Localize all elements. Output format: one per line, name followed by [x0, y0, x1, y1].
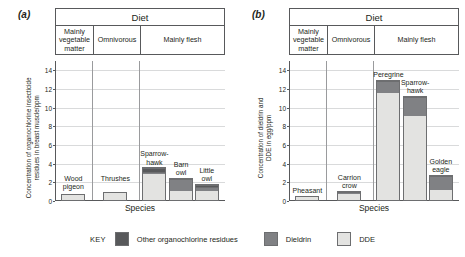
y-tick-label: 4 — [48, 160, 52, 167]
bar-segment-dde — [296, 197, 318, 200]
gridline — [289, 145, 459, 146]
diet-group-separator — [326, 61, 327, 201]
y-tick-label: 10 — [45, 104, 52, 111]
panel-a-ylabel-line1: Concentration of organochlorine insectic… — [25, 77, 32, 198]
panel-a-letter: (a) — [18, 9, 30, 20]
y-tick-label: 10 — [279, 104, 286, 111]
diet-col-flesh-a: Mainly flesh — [140, 26, 224, 55]
diet-col-flesh-b: Mainly flesh — [374, 26, 458, 55]
y-tick-label: 14 — [279, 67, 286, 74]
diet-group-separator — [373, 61, 374, 201]
diet-col-omnivorous-a: Omnivorous — [93, 26, 140, 55]
legend-key: KEY Other organochlorine residues Dieldr… — [0, 228, 465, 250]
bar-segment-dde — [104, 193, 126, 200]
bar-label: Sparrow- hawk — [140, 150, 168, 166]
y-tick-label: 8 — [48, 123, 52, 130]
gridline — [289, 108, 459, 109]
panel-a-diet-header: Diet Mainly vegetable matter Omnivorous … — [55, 8, 225, 55]
bar-label: Thrushes — [101, 175, 130, 183]
diet-group-separator — [139, 61, 140, 201]
y-tick-label: 2 — [282, 179, 286, 186]
gridline — [55, 70, 225, 71]
panel-a: (a) Diet Mainly vegetable matter Omnivor… — [0, 0, 232, 218]
y-axis-line — [55, 61, 56, 201]
y-tick-label: 14 — [45, 67, 52, 74]
diet-title-a: Diet — [56, 9, 224, 26]
diet-title-b: Diet — [290, 9, 458, 26]
panel-a-plot-area: 02468101214Wood pigeonThrushesSparrow- h… — [55, 61, 225, 201]
bar-label: Peregrine — [373, 71, 403, 79]
panel-b-ylabel-line1: Concentration of dieldrin and — [257, 98, 264, 179]
panel-b-ylabel-line2: DDE in egg/ppm — [265, 115, 272, 161]
diet-col-omnivorous-b: Omnivorous — [327, 26, 374, 55]
bar-segment-dde — [196, 191, 218, 200]
key-item-other: Other organochlorine residues — [115, 232, 264, 246]
panel-b-letter: (b) — [252, 9, 265, 20]
gridline — [55, 89, 225, 90]
bar-golden-eagle — [429, 175, 453, 201]
panel-a-ylabel-line2: residues in breast muscle/ppm — [33, 95, 40, 180]
key-text-dieldrin: Dieldrin — [286, 235, 311, 244]
key-text-other: Other organochlorine residues — [137, 235, 238, 244]
y-tick-mark — [53, 201, 56, 202]
key-label: KEY — [90, 235, 106, 244]
bar-sparrow--hawk — [142, 167, 166, 201]
diet-col-vegetable-b: Mainly vegetable matter — [290, 26, 327, 55]
bar-segment-dde — [338, 194, 360, 200]
panel-a-ylabel: Concentration of organochlorine insectic… — [25, 63, 41, 213]
panel-b-ylabel: Concentration of dieldrin and DDE in egg… — [257, 82, 273, 194]
gridline — [55, 108, 225, 109]
gridline — [289, 126, 459, 127]
bar-segment-dde — [404, 116, 426, 200]
bar-label: Barn owl — [174, 161, 189, 177]
bar-label: Wood pigeon — [63, 175, 84, 191]
y-axis-line — [289, 61, 290, 201]
y-tick-label: 0 — [48, 198, 52, 205]
bar-label: Pheasant — [293, 187, 323, 195]
panel-a-xlabel: Species — [55, 203, 225, 213]
gridline — [289, 89, 459, 90]
bar-segment-dieldrin — [430, 176, 452, 190]
bar-label: Little owl — [199, 167, 214, 183]
swatch-dieldrin-icon — [264, 232, 278, 246]
key-item-dde: DDE — [337, 232, 375, 246]
y-tick-label: 6 — [282, 142, 286, 149]
bar-sparrow--hawk — [403, 96, 427, 201]
y-tick-label: 0 — [282, 198, 286, 205]
diet-group-separator — [92, 61, 93, 201]
bar-segment-dieldrin — [377, 81, 399, 93]
gridline — [55, 126, 225, 127]
bar-segment-dieldrin — [404, 97, 426, 116]
key-text-dde: DDE — [359, 235, 375, 244]
panel-b-diet-header: Diet Mainly vegetable matter Omnivorous … — [289, 8, 459, 55]
panel-b-plot-area: 02468101214PheasantCarrion crowPeregrine… — [289, 61, 459, 201]
panel-b: (b) Diet Mainly vegetable matter Omnivor… — [232, 0, 465, 218]
bar-wood-pigeon — [61, 194, 85, 201]
bar-label: Golden eagle — [430, 158, 453, 174]
y-tick-label: 12 — [279, 86, 286, 93]
y-tick-label: 2 — [48, 179, 52, 186]
panel-b-xlabel: Species — [289, 203, 459, 213]
y-tick-label: 6 — [48, 142, 52, 149]
bar-segment-dde — [430, 190, 452, 200]
figure-organochlorine-residues: (a) Diet Mainly vegetable matter Omnivor… — [0, 0, 465, 257]
bar-segment-dde — [143, 174, 165, 200]
bar-segment-dde — [377, 93, 399, 200]
bar-peregrine — [376, 80, 400, 201]
bar-thrushes — [103, 192, 127, 201]
y-tick-label: 8 — [282, 123, 286, 130]
bar-segment-dde — [170, 191, 192, 200]
y-tick-mark — [287, 201, 290, 202]
key-item-dieldrin: Dieldrin — [264, 232, 337, 246]
bar-label: Sparrow- hawk — [401, 79, 429, 95]
swatch-other-icon — [115, 232, 129, 246]
bar-little-owl — [195, 184, 219, 201]
diet-col-vegetable-a: Mainly vegetable matter — [56, 26, 93, 55]
bar-segment-dde — [62, 195, 84, 200]
y-tick-label: 4 — [282, 160, 286, 167]
bar-barn-owl — [169, 178, 193, 201]
bar-segment-dieldrin — [170, 179, 192, 191]
bar-label: Carrion crow — [338, 174, 361, 190]
y-tick-label: 12 — [45, 86, 52, 93]
gridline — [55, 145, 225, 146]
